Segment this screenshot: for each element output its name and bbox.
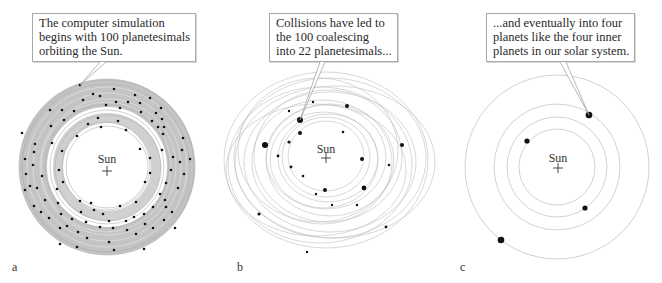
panel-b-orbits — [224, 72, 435, 248]
panel-label-c: c — [460, 260, 465, 275]
panel-a-sun: Sun — [98, 152, 117, 176]
orbit-diagram: Sun Sun — [0, 0, 662, 283]
panel-label-b: b — [237, 260, 243, 275]
planet-2 — [524, 138, 529, 143]
panel-label-a: a — [12, 260, 17, 275]
panel-c-callout-pointer — [560, 62, 589, 115]
panel-c-planets — [498, 112, 593, 244]
planet-3 — [582, 205, 587, 210]
sun-label-a: Sun — [98, 152, 117, 166]
sun-marker-a — [102, 166, 112, 176]
panel-b-callout-pointer — [300, 62, 325, 120]
panel-c-orbits — [465, 75, 649, 259]
sun-label-c: Sun — [549, 151, 568, 165]
planet-4 — [498, 237, 505, 244]
panel-c-sun: Sun — [549, 151, 568, 173]
panel-b-sun: Sun — [317, 142, 336, 163]
